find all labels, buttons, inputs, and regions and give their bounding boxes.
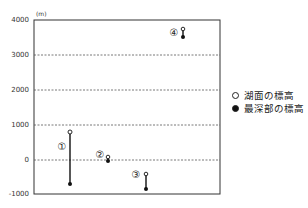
data-point-4: ④ <box>170 27 185 39</box>
deepest-marker <box>106 159 110 163</box>
surface-marker <box>68 130 72 134</box>
point-label: ④ <box>170 27 179 38</box>
legend-item-surface: 湖面の標高 <box>232 89 304 102</box>
filled-circle-icon <box>232 105 239 112</box>
surface-marker <box>144 172 148 176</box>
deepest-marker <box>68 182 72 186</box>
legend-label: 最深部の標高 <box>244 102 304 115</box>
data-point-1: ① <box>58 130 72 186</box>
legend-item-deepest: 最深部の標高 <box>232 102 304 115</box>
open-circle-icon <box>232 92 239 99</box>
y-tick-0: 0 <box>25 156 29 164</box>
surface-marker <box>106 155 110 159</box>
data-point-2: ② <box>96 149 110 163</box>
point-label: ① <box>58 141 67 152</box>
surface-marker <box>181 27 185 31</box>
deepest-marker <box>181 35 185 39</box>
y-tick-labels: 4000 3000 2000 1000 0 -1000 <box>9 16 29 198</box>
y-tick-2000: 2000 <box>11 86 29 94</box>
point-label: ② <box>96 149 105 160</box>
lake-elevation-chart: (m) 4000 3000 2000 1000 0 -1000 ① ② <box>0 0 308 208</box>
legend-label: 湖面の標高 <box>244 89 294 102</box>
point-label: ③ <box>132 169 141 180</box>
y-tick-4000: 4000 <box>11 16 29 24</box>
plot-frame <box>34 20 220 194</box>
y-tick-neg1000: -1000 <box>9 190 29 198</box>
y-tick-1000: 1000 <box>11 121 29 129</box>
deepest-marker <box>144 187 148 191</box>
data-point-3: ③ <box>132 169 148 191</box>
y-axis-unit: (m) <box>36 10 47 17</box>
chart-legend: 湖面の標高 最深部の標高 <box>232 89 304 115</box>
y-tick-3000: 3000 <box>11 51 29 59</box>
